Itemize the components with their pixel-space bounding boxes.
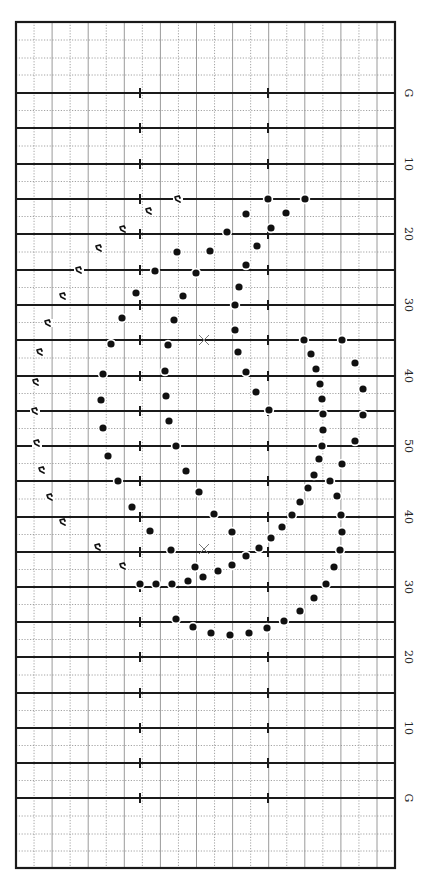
performer-dot [333,492,340,499]
flag-icon [118,225,128,233]
performer-dot [359,385,366,392]
performer-dot [242,210,249,217]
performer-dot [164,341,171,348]
performer-dot [161,367,168,374]
performer-dot [107,340,114,347]
flag-icon [37,466,47,474]
performer-dot [318,395,325,402]
performer-dot [319,426,326,433]
flag-icon [32,439,42,447]
flag-icon [173,195,183,203]
performer-dot [97,396,104,403]
yard-label: 20 [402,650,415,664]
flag-icon [144,207,154,215]
performer-dot [231,326,238,333]
performer-dot [210,510,217,517]
flag-icon [93,543,103,551]
flag-icon [94,244,104,252]
performer-dot [310,594,317,601]
performer-dot [136,580,143,587]
performer-dot [253,242,260,249]
performer-dot [235,283,242,290]
performer-dot [330,563,337,570]
performer-dot [162,392,169,399]
performer-dot [301,195,308,202]
performer-dot [128,503,135,510]
performer-dot [322,580,329,587]
yard-label: 50 [402,439,415,453]
performer-dot [168,580,175,587]
performer-dot [242,261,249,268]
yard-label: 10 [402,721,415,735]
performer-dot [318,442,325,449]
performer-dot [146,527,153,534]
flag-icon [45,493,55,501]
performer-dot [170,316,177,323]
performer-dot [315,455,322,462]
performer-dot [278,523,285,530]
performer-dot [288,511,295,518]
performer-dot [263,624,270,631]
performer-dot [242,552,249,559]
field-grid [16,22,395,868]
flag-icon [30,407,40,415]
performer-dot [228,528,235,535]
performer-dot [351,359,358,366]
performer-dot [189,623,196,630]
performer-dot [114,477,121,484]
flag-icon [43,319,53,327]
performer-dot [282,209,289,216]
yard-label: 20 [402,227,415,241]
performer-dot [179,292,186,299]
drill-chart: G102030405040302010G [0,0,426,888]
performer-dot [310,471,317,478]
performer-dot [326,477,333,484]
performer-dot [337,511,344,518]
performer-dot [351,437,358,444]
yard-labels: G102030405040302010G [402,89,415,803]
performer-dot [312,365,319,372]
performer-dot [265,406,272,413]
performer-dot [182,467,189,474]
performer-dot [152,580,159,587]
performer-dot [267,534,274,541]
flag-icon [118,562,128,570]
flag-icon [58,292,68,300]
yard-label: 10 [402,157,415,171]
performer-dot [228,561,235,568]
performer-dot [206,247,213,254]
performer-dot [338,460,345,467]
performer-dot [231,301,238,308]
performer-dot [316,380,323,387]
yard-label: 40 [402,510,415,524]
performer-dot [234,348,241,355]
flag-icon [58,518,68,526]
performer-dot [223,228,230,235]
performer-dot [336,546,343,553]
performer-dot [226,631,233,638]
performer-dot [280,617,287,624]
performer-dot [252,388,259,395]
performer-dot [199,573,206,580]
performer-dot [245,629,252,636]
performer-dot [151,267,158,274]
field-frame [16,22,395,868]
performer-dot [132,289,139,296]
yard-label: 40 [402,369,415,383]
flag-icon [35,348,45,356]
performer-dot [99,370,106,377]
performer-dot [191,563,198,570]
performer-dot [172,615,179,622]
performer-dot [172,442,179,449]
performer-dot [296,498,303,505]
performer-dot [214,567,221,574]
flag-icon [31,378,41,386]
performer-dot [99,424,106,431]
performer-dot [242,368,249,375]
performer-dot [167,546,174,553]
performer-dot [184,577,191,584]
performer-dot [165,417,172,424]
performer-dot [300,336,307,343]
performer-dot [338,336,345,343]
performer-dot [255,544,262,551]
